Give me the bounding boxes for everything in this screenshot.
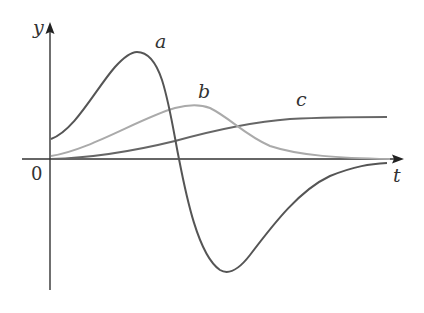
- curve-b-label: b: [198, 80, 210, 102]
- origin-label: 0: [31, 163, 42, 184]
- t-axis-label: t: [393, 164, 401, 186]
- graph-figure: y t 0 a b c: [0, 0, 424, 313]
- curve-a-label: a: [155, 30, 166, 52]
- y-axis-label: y: [32, 16, 44, 38]
- curve-a: [51, 52, 387, 272]
- curve-c: [51, 117, 387, 159]
- curve-b: [51, 105, 390, 159]
- curve-c-label: c: [296, 88, 307, 110]
